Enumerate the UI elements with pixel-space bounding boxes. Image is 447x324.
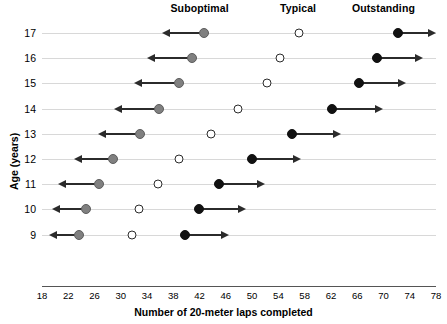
data-point-outstanding-age-11 (214, 179, 224, 189)
arrow-head-left (134, 79, 142, 87)
x-tick-label-50: 50 (247, 290, 258, 301)
arrow-head-right (428, 29, 436, 37)
arrow-head-right (293, 155, 301, 163)
arrow-shaft (377, 57, 416, 59)
y-tick-label-9: 9 (14, 229, 36, 241)
arrow-head-right (333, 130, 341, 138)
arrow-shaft (359, 82, 400, 84)
y-tick-label-15: 15 (14, 77, 36, 89)
arrow-head-left (147, 54, 155, 62)
arrow-shaft (199, 208, 239, 210)
data-point-typical-age-12 (175, 155, 184, 164)
y-tick-label-14: 14 (14, 103, 36, 115)
arrow-shaft (185, 234, 222, 236)
data-point-typical-age-17 (294, 29, 303, 38)
arrow-shaft (292, 133, 334, 135)
data-point-suboptimal-age-11 (94, 179, 104, 189)
data-point-typical-age-13 (206, 129, 215, 138)
x-tick-label-54: 54 (273, 290, 284, 301)
row-guide-line (42, 235, 436, 236)
data-point-typical-age-9 (127, 230, 136, 239)
data-point-outstanding-age-14 (327, 104, 337, 114)
arrow-head-right (415, 54, 423, 62)
data-point-suboptimal-age-14 (154, 104, 164, 114)
data-point-suboptimal-age-13 (135, 129, 145, 139)
data-point-suboptimal-age-10 (81, 204, 91, 214)
arrow-shaft (219, 183, 259, 185)
arrow-head-right (221, 231, 229, 239)
data-point-suboptimal-age-9 (74, 230, 84, 240)
y-tick-label-10: 10 (14, 203, 36, 215)
y-tick-label-17: 17 (14, 27, 36, 39)
data-point-outstanding-age-12 (247, 154, 257, 164)
x-axis-title: Number of 20-meter laps completed (0, 306, 447, 318)
x-tick-label-34: 34 (142, 290, 153, 301)
arrow-head-left (74, 155, 82, 163)
data-point-typical-age-10 (135, 205, 144, 214)
arrow-shaft (332, 108, 376, 110)
x-tick-label-30: 30 (116, 290, 127, 301)
data-point-suboptimal-age-15 (174, 78, 184, 88)
arrow-head-right (238, 205, 246, 213)
data-point-suboptimal-age-17 (199, 28, 209, 38)
x-tick-label-42: 42 (194, 290, 205, 301)
arrow-head-left (98, 130, 106, 138)
y-tick-label-16: 16 (14, 52, 36, 64)
arrow-head-left (162, 29, 170, 37)
x-tick-label-66: 66 (352, 290, 363, 301)
arrow-head-left (49, 231, 57, 239)
x-tick-label-62: 62 (326, 290, 337, 301)
x-tick-label-78: 78 (431, 290, 442, 301)
data-point-outstanding-age-13 (287, 129, 297, 139)
arrow-shaft (252, 158, 294, 160)
x-tick-label-22: 22 (63, 290, 74, 301)
arrow-head-right (257, 180, 265, 188)
data-point-outstanding-age-16 (372, 53, 382, 63)
arrow-head-left (114, 105, 122, 113)
data-point-outstanding-age-15 (354, 78, 364, 88)
arrow-head-right (398, 79, 406, 87)
fitness-age-chart: SuboptimalTypicalOutstanding 17161514131… (0, 0, 447, 324)
arrow-head-left (52, 205, 60, 213)
data-point-typical-age-14 (233, 104, 242, 113)
data-point-suboptimal-age-12 (108, 154, 118, 164)
data-point-typical-age-15 (263, 79, 272, 88)
data-point-typical-age-11 (154, 180, 163, 189)
x-tick-label-58: 58 (299, 290, 310, 301)
data-point-suboptimal-age-16 (187, 53, 197, 63)
x-axis-line (42, 286, 436, 287)
data-point-typical-age-16 (275, 54, 284, 63)
y-axis-title: Age (years) (8, 133, 20, 190)
arrow-head-right (375, 105, 383, 113)
data-point-outstanding-age-9 (180, 230, 190, 240)
data-point-outstanding-age-17 (393, 28, 403, 38)
x-tick-label-74: 74 (404, 290, 415, 301)
x-tick-label-70: 70 (378, 290, 389, 301)
plot-area (0, 0, 447, 324)
x-tick-label-18: 18 (37, 290, 48, 301)
row-guide-line (42, 33, 436, 34)
x-tick-label-46: 46 (221, 290, 232, 301)
x-tick-label-38: 38 (168, 290, 179, 301)
data-point-outstanding-age-10 (194, 204, 204, 214)
x-tick-label-26: 26 (89, 290, 100, 301)
arrow-head-left (58, 180, 66, 188)
